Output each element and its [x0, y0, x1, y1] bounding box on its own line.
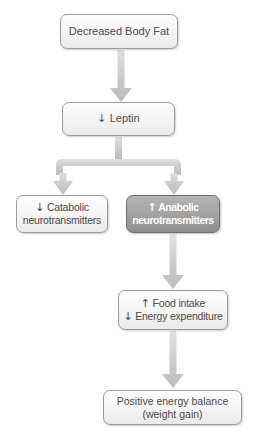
node-leptin-label: Leptin	[110, 112, 140, 124]
node-anabolic-neurotransmitters: ↑ Anabolicneurotransmitters	[126, 195, 220, 233]
connector-anabolic-to-food-intake	[160, 234, 186, 290]
node-anabolic-line2: neurotransmitters	[132, 214, 213, 226]
node-leptin: ↓ Leptin	[62, 102, 175, 136]
node-food-intake-energy-expenditure: ↑ Food intake↓ Energy expenditure	[118, 290, 228, 330]
node-catabolic-content: ↓ Catabolicneurotransmitters	[20, 201, 104, 227]
node-food-intake-content: ↑ Food intake↓ Energy expenditure	[120, 297, 225, 324]
node-catabolic-line1: Catabolic	[47, 201, 89, 213]
node-decreased-body-fat: Decreased Body Fat	[60, 14, 178, 49]
node-catabolic-line2: neurotransmitters	[23, 214, 101, 226]
connector-body-fat-to-leptin	[108, 50, 134, 103]
node-positive-energy-line1: Positive energy balance	[117, 395, 229, 407]
node-food-intake-line2: Energy expenditure	[135, 310, 222, 322]
node-decreased-body-fat-label: Decreased Body Fat	[66, 25, 172, 38]
node-catabolic-neurotransmitters: ↓ Catabolicneurotransmitters	[16, 195, 108, 233]
node-food-intake-line1: Food intake	[153, 297, 206, 309]
down-arrow-icon: ↓	[123, 310, 132, 323]
flowchart-diagram: Decreased Body Fat ↓ Leptin ↓ Catabolicn…	[0, 0, 257, 438]
node-positive-energy-balance: Positive energy balance(weight gain)	[103, 390, 242, 425]
up-arrow-icon: ↑	[141, 297, 150, 310]
node-positive-energy-line2: (weight gain)	[142, 408, 202, 420]
down-arrow-icon: ↓	[97, 112, 106, 125]
connector-leptin-split	[56, 137, 181, 196]
node-positive-energy-content: Positive energy balance(weight gain)	[114, 395, 232, 421]
up-arrow-icon: ↑	[147, 201, 156, 214]
node-anabolic-content: ↑ Anabolicneurotransmitters	[129, 201, 216, 227]
down-arrow-icon: ↓	[35, 201, 44, 214]
connector-food-intake-to-positive-energy	[160, 331, 186, 389]
node-leptin-content: ↓ Leptin	[94, 112, 142, 125]
node-anabolic-line1: Anabolic	[158, 201, 198, 213]
